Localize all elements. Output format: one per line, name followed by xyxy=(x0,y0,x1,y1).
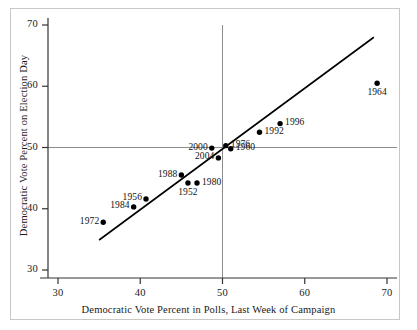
data-point-1988 xyxy=(179,172,184,177)
x-axis-tick-label: 60 xyxy=(290,287,320,298)
y-axis-title: Democratic Vote Percent on Election Day xyxy=(18,31,29,261)
data-point-2004 xyxy=(216,155,221,160)
data-point-1964 xyxy=(374,80,379,85)
data-point-label-2000: 2000 xyxy=(186,142,208,152)
y-axis-tick-label: 70 xyxy=(18,18,38,29)
data-point-1952 xyxy=(185,180,190,185)
data-point-label-1956: 1956 xyxy=(120,192,142,202)
data-point-label-1960: 1960 xyxy=(236,142,258,152)
data-point-1972 xyxy=(101,220,106,225)
data-point-label-1964: 1964 xyxy=(366,87,388,97)
data-point-label-1980: 1980 xyxy=(202,177,224,187)
data-point-label-1972: 1972 xyxy=(77,216,99,226)
data-point-label-1996: 1996 xyxy=(285,117,307,127)
data-point-1976 xyxy=(223,143,228,148)
x-axis-tick-label: 30 xyxy=(43,287,73,298)
data-point-label-1952: 1952 xyxy=(177,187,199,197)
data-point-1992 xyxy=(257,129,262,134)
data-point-2000 xyxy=(209,145,214,150)
x-axis-tick-label: 50 xyxy=(208,287,238,298)
plot-canvas xyxy=(0,0,417,330)
scatter-plot-figure: 30405060703040506070 1972198419561988195… xyxy=(0,0,417,330)
data-point-label-1988: 1988 xyxy=(155,169,177,179)
y-axis-tick-label: 30 xyxy=(18,263,38,274)
data-point-1980 xyxy=(194,180,199,185)
data-point-1984 xyxy=(131,204,136,209)
data-point-label-1992: 1992 xyxy=(265,126,287,136)
x-axis-title: Democratic Vote Percent in Polls, Last W… xyxy=(0,304,417,315)
data-point-label-2004: 2004 xyxy=(192,151,214,161)
x-axis-tick-label: 40 xyxy=(125,287,155,298)
data-point-1956 xyxy=(143,196,148,201)
x-axis-tick-label: 70 xyxy=(372,287,402,298)
